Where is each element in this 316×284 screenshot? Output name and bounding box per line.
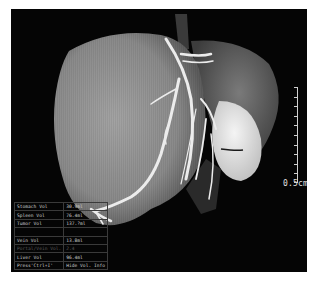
volume-label: Vein Vol [15, 236, 64, 244]
scale-tick [294, 87, 298, 88]
shortcut-hint-action: Hide Vol. Info [64, 261, 108, 269]
volume-label: Spleen Vol [15, 211, 64, 219]
volume-label: Portal/Vein Vol. [15, 244, 64, 252]
scale-bar-label: 0.5cm [283, 179, 307, 188]
volume-row-vein: Vein Vol13.8ml [15, 236, 108, 244]
scale-tick [294, 154, 298, 155]
volume-value [64, 228, 108, 236]
scale-tick [294, 116, 298, 117]
3d-render-viewport[interactable]: 0.5cm Stomach Vol30.9ml Spleen Vol76.4ml… [11, 9, 307, 272]
volume-label: Stomach Vol [15, 203, 64, 211]
volume-value: 137.?ml [64, 219, 108, 227]
shortcut-hint-key: Press'Ctrl+I' [15, 261, 64, 269]
volume-value: 76.4ml [64, 211, 108, 219]
scale-tick [294, 173, 298, 174]
volume-row-stomach: Stomach Vol30.9ml [15, 203, 108, 211]
volume-value: 13.8ml [64, 236, 108, 244]
scale-tick [294, 164, 298, 165]
volume-value: 96.4ml [64, 253, 108, 261]
volume-row-portal-vein-ratio: Portal/Vein Vol.2.4 [15, 244, 108, 252]
volume-value: 2.4 [64, 244, 108, 252]
scale-bar [291, 87, 305, 183]
scale-tick [294, 145, 298, 146]
scale-tick [294, 125, 298, 126]
scale-tick [294, 97, 298, 98]
volume-info-table: Stomach Vol30.9ml Spleen Vol76.4ml Tumor… [14, 202, 108, 270]
volume-value: 30.9ml [64, 203, 108, 211]
volume-row-hint: Press'Ctrl+I'Hide Vol. Info [15, 261, 108, 269]
volume-label: Liver Vol [15, 253, 64, 261]
volume-row-liver: Liver Vol96.4ml [15, 253, 108, 261]
volume-row-tumor: Tumor Vol137.?ml [15, 219, 108, 227]
volume-label [15, 228, 64, 236]
volume-row-spleen: Spleen Vol76.4ml [15, 211, 108, 219]
volume-row-empty [15, 228, 108, 236]
volume-label: Tumor Vol [15, 219, 64, 227]
scale-tick [294, 135, 298, 136]
scale-tick [294, 106, 298, 107]
